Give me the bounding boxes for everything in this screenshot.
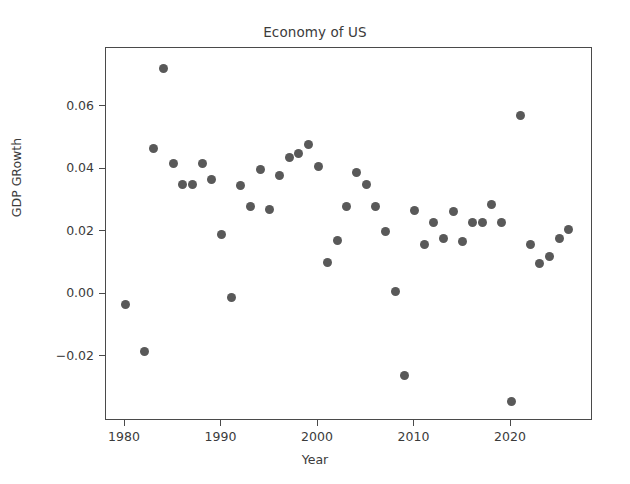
scatter-point <box>458 237 467 246</box>
x-tick-label: 2010 <box>374 429 454 444</box>
scatter-point <box>478 218 487 227</box>
scatter-point <box>342 202 351 211</box>
scatter-point <box>507 397 516 406</box>
scatter-point <box>333 236 342 245</box>
scatter-point <box>198 159 207 168</box>
scatter-point <box>169 159 178 168</box>
scatter-point <box>217 230 226 239</box>
y-tick-label: 0.00 <box>0 285 94 300</box>
scatter-point <box>410 206 419 215</box>
scatter-point <box>371 202 380 211</box>
scatter-point <box>285 153 294 162</box>
x-tick-label: 1980 <box>84 429 164 444</box>
scatter-point <box>497 218 506 227</box>
scatter-point <box>159 64 168 73</box>
x-tick-label: 2000 <box>277 429 357 444</box>
page-title: Economy of US <box>0 24 630 40</box>
scatter-point <box>362 180 371 189</box>
scatter-point <box>526 240 535 249</box>
x-tick-label: 1990 <box>181 429 261 444</box>
scatter-point <box>555 234 564 243</box>
y-tick-label: 0.02 <box>0 223 94 238</box>
scatter-point <box>449 207 458 216</box>
y-tick-label: 0.06 <box>0 98 94 113</box>
scatter-point <box>352 168 361 177</box>
scatter-point <box>188 180 197 189</box>
scatter-point <box>236 181 245 190</box>
scatter-point <box>140 347 149 356</box>
scatter-point <box>400 371 409 380</box>
matplotlib-figure: Economy of US GDP GRowth Year −0.020.000… <box>0 0 630 484</box>
scatter-point <box>323 258 332 267</box>
scatter-point <box>545 252 554 261</box>
scatter-points-layer <box>106 48 593 421</box>
scatter-point <box>256 165 265 174</box>
scatter-point <box>304 140 313 149</box>
scatter-point <box>121 300 130 309</box>
y-tick-label: −0.02 <box>0 348 94 363</box>
scatter-point <box>149 144 158 153</box>
scatter-point <box>381 227 390 236</box>
scatter-point <box>294 149 303 158</box>
scatter-point <box>487 200 496 209</box>
scatter-point <box>516 111 525 120</box>
scatter-point <box>439 234 448 243</box>
scatter-point <box>207 175 216 184</box>
scatter-point <box>246 202 255 211</box>
scatter-point <box>420 240 429 249</box>
scatter-point <box>178 180 187 189</box>
scatter-point <box>429 218 438 227</box>
scatter-point <box>564 225 573 234</box>
x-axis-label: Year <box>0 452 630 467</box>
x-tick-label: 2020 <box>470 429 550 444</box>
scatter-point <box>314 162 323 171</box>
scatter-point <box>535 259 544 268</box>
scatter-point <box>391 287 400 296</box>
scatter-point <box>468 218 477 227</box>
scatter-point <box>275 171 284 180</box>
scatter-point <box>227 293 236 302</box>
y-tick-label: 0.04 <box>0 160 94 175</box>
scatter-point <box>265 205 274 214</box>
plot-area <box>105 47 592 420</box>
